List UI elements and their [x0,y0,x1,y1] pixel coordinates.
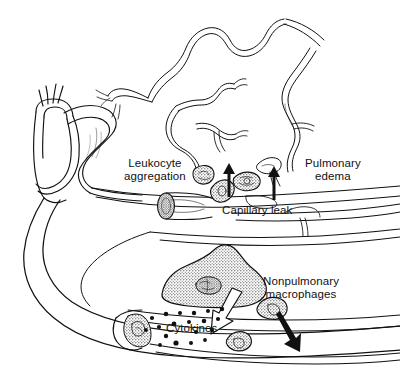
heart-and-great-vessels [34,84,142,202]
pulmonary-capillary-network [96,19,324,172]
macrophage-small-b [226,332,251,351]
diagram-artwork [0,0,400,376]
macrophage-large [162,245,266,308]
medical-illustration-figure: Leukocyte aggregation Pulmonary edema Ca… [0,0,400,376]
